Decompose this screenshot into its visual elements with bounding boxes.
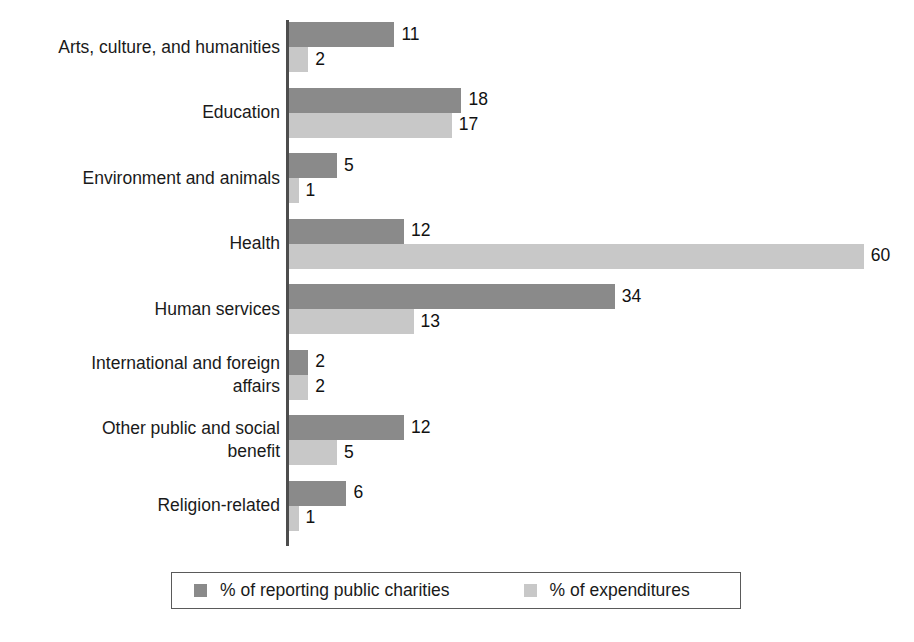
bar-of-expenditures-human-services: 13 [289, 309, 414, 334]
bar-of-reporting-public-charities-human-services: 34 [289, 284, 615, 309]
bar-fill [289, 113, 452, 138]
bar-fill [289, 88, 461, 113]
bar-of-expenditures-religion-related: 1 [289, 506, 299, 531]
bar-group-education: Education1817 [0, 88, 914, 138]
bar-fill [289, 440, 337, 465]
bar-value-label: 18 [461, 91, 487, 109]
legend-item-reporting-public-charities: % of reporting public charities [194, 580, 450, 601]
bar-group-human-services: Human services3413 [0, 284, 914, 334]
bar-of-reporting-public-charities-religion-related: 6 [289, 481, 346, 506]
category-label-arts-culture-and-humanities: Arts, culture, and humanities [0, 36, 280, 59]
bar-value-label: 34 [615, 288, 641, 306]
bar-fill [289, 178, 299, 203]
bar-group-environment-and-animals: Environment and animals51 [0, 153, 914, 203]
legend-label-series-0: % of reporting public charities [220, 580, 450, 601]
bar-fill [289, 415, 404, 440]
bar-fill [289, 22, 394, 47]
bar-of-expenditures-health: 60 [289, 244, 864, 269]
bar-fill [289, 309, 414, 334]
category-label-other-public-and-social-benefit: Other public and social benefit [0, 417, 280, 463]
bar-fill [289, 153, 337, 178]
bar-fill [289, 244, 864, 269]
category-label-education: Education [0, 101, 280, 124]
bar-of-expenditures-international-and-foreign-affairs: 2 [289, 375, 308, 400]
bar-fill [289, 350, 308, 375]
chart-legend: % of reporting public charities % of exp… [171, 572, 741, 609]
bar-chart: Arts, culture, and humanities112Educatio… [0, 0, 914, 642]
legend-swatch-icon-series-0 [194, 584, 207, 597]
bar-fill [289, 47, 308, 72]
bar-of-expenditures-education: 17 [289, 113, 452, 138]
bar-of-expenditures-environment-and-animals: 1 [289, 178, 299, 203]
category-label-religion-related: Religion-related [0, 494, 280, 517]
plot-area: Arts, culture, and humanities112Educatio… [0, 0, 914, 560]
bar-group-religion-related: Religion-related61 [0, 481, 914, 531]
bar-fill [289, 481, 346, 506]
bar-group-international-and-foreign-affairs: International and foreign affairs22 [0, 350, 914, 400]
bar-value-label: 1 [299, 182, 316, 200]
bar-fill [289, 284, 615, 309]
bar-of-reporting-public-charities-international-and-foreign-affairs: 2 [289, 350, 308, 375]
bar-group-health: Health1260 [0, 219, 914, 269]
bar-fill [289, 506, 299, 531]
bar-value-label: 5 [337, 444, 354, 462]
bar-value-label: 2 [308, 353, 325, 371]
bar-value-label: 12 [404, 222, 430, 240]
category-label-human-services: Human services [0, 298, 280, 321]
bar-fill [289, 219, 404, 244]
bar-fill [289, 375, 308, 400]
bar-value-label: 60 [864, 247, 890, 265]
bar-of-reporting-public-charities-health: 12 [289, 219, 404, 244]
category-label-international-and-foreign-affairs: International and foreign affairs [0, 352, 280, 398]
bar-value-label: 5 [337, 157, 354, 175]
bar-of-expenditures-other-public-and-social-benefit: 5 [289, 440, 337, 465]
legend-label-series-1: % of expenditures [550, 580, 690, 601]
bar-value-label: 11 [394, 26, 419, 44]
bar-of-reporting-public-charities-education: 18 [289, 88, 461, 113]
bar-of-reporting-public-charities-other-public-and-social-benefit: 12 [289, 415, 404, 440]
bar-value-label: 1 [299, 509, 316, 527]
legend-item-expenditures: % of expenditures [524, 580, 690, 601]
bar-group-other-public-and-social-benefit: Other public and social benefit125 [0, 415, 914, 465]
legend-swatch-icon-series-1 [524, 584, 537, 597]
bar-of-reporting-public-charities-arts-culture-and-humanities: 11 [289, 22, 394, 47]
bar-value-label: 6 [346, 484, 363, 502]
category-label-environment-and-animals: Environment and animals [0, 167, 280, 190]
bar-value-label: 12 [404, 419, 430, 437]
category-label-health: Health [0, 232, 280, 255]
bar-value-label: 17 [452, 116, 478, 134]
bar-of-expenditures-arts-culture-and-humanities: 2 [289, 47, 308, 72]
bar-value-label: 13 [414, 313, 440, 331]
bar-value-label: 2 [308, 378, 325, 396]
bar-value-label: 2 [308, 51, 325, 69]
bar-group-arts-culture-and-humanities: Arts, culture, and humanities112 [0, 22, 914, 72]
bar-of-reporting-public-charities-environment-and-animals: 5 [289, 153, 337, 178]
